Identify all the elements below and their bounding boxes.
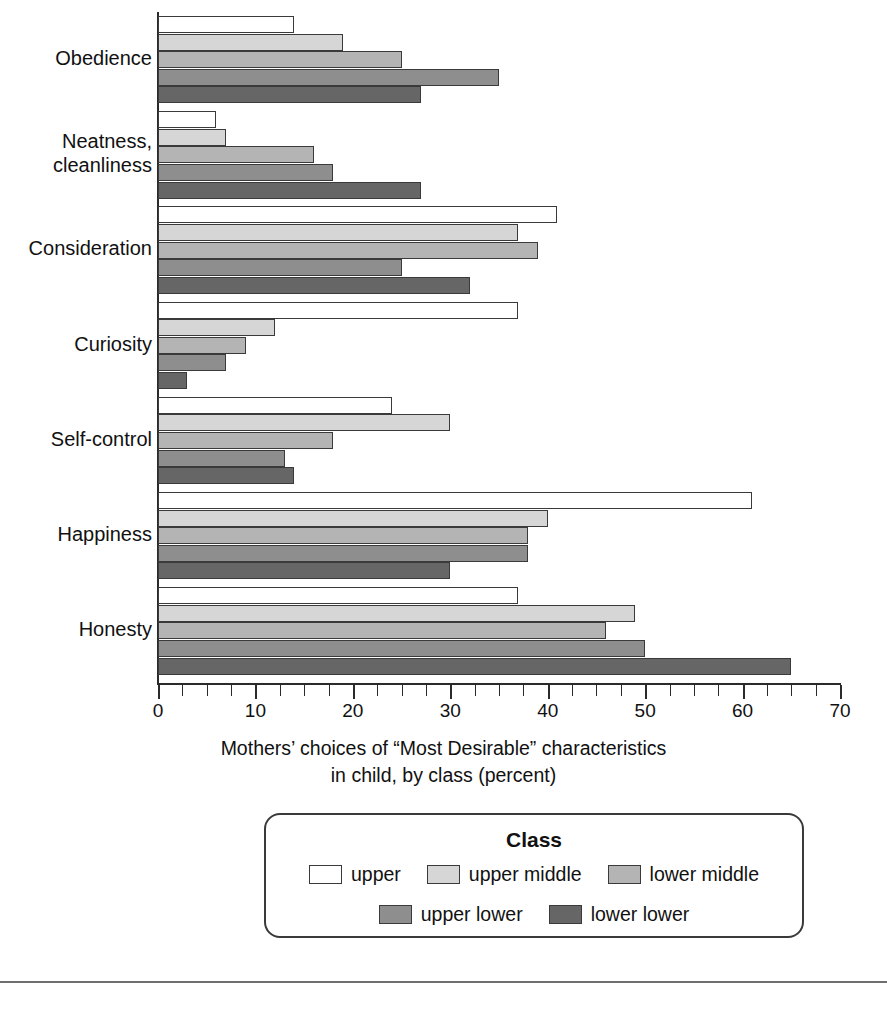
legend-swatch (309, 865, 342, 884)
legend-label: upper lower (421, 903, 523, 926)
category-label: Honesty (79, 617, 152, 641)
x-tick-minor (304, 685, 305, 696)
x-tick-minor (694, 685, 695, 696)
bar (158, 242, 538, 259)
legend-swatch (379, 905, 412, 924)
bar (158, 450, 285, 467)
legend-item[interactable]: lower lower (549, 903, 690, 926)
category-label: Neatness, cleanliness (53, 129, 152, 177)
bar (158, 34, 343, 51)
x-tick-major (353, 685, 355, 699)
bar (158, 16, 294, 33)
x-tick-major (450, 685, 452, 699)
category-label: Self-control (51, 427, 152, 451)
bar (158, 182, 421, 199)
bar (158, 372, 187, 389)
bar (158, 69, 499, 86)
category-label: Consideration (29, 236, 152, 260)
bar-chart-figure: 010203040506070 ObedienceNeatness, clean… (0, 0, 887, 1011)
x-tick-major (743, 685, 745, 699)
legend-label: upper (351, 863, 401, 886)
x-tick-minor (523, 685, 524, 696)
x-tick-minor (791, 685, 792, 696)
bar (158, 302, 518, 319)
x-axis-title: Mothers’ choices of “Most Desirable” cha… (0, 735, 887, 789)
legend-label: upper middle (469, 863, 582, 886)
x-tick-minor (596, 685, 597, 696)
bar (158, 622, 606, 639)
category-label: Obedience (55, 46, 152, 70)
legend-item[interactable]: upper lower (379, 903, 523, 926)
x-tick-label: 10 (245, 700, 266, 722)
bar (158, 605, 635, 622)
x-tick-minor (621, 685, 622, 696)
category-label: Curiosity (74, 332, 152, 356)
bar (158, 467, 294, 484)
x-tick-minor (499, 685, 500, 696)
legend-swatch (427, 865, 460, 884)
bar (158, 259, 402, 276)
bar (158, 354, 226, 371)
legend-label: lower middle (650, 863, 759, 886)
legend-row-top: upperupper middlelower middle (266, 863, 802, 886)
x-tick-major (158, 685, 160, 699)
bar (158, 164, 333, 181)
bar (158, 640, 645, 657)
x-tick-label: 30 (440, 700, 461, 722)
legend-row-bottom: upper lowerlower lower (266, 903, 802, 926)
x-tick-minor (402, 685, 403, 696)
x-tick-minor (475, 685, 476, 696)
bottom-divider (0, 981, 887, 983)
bar (158, 206, 557, 223)
legend-title: Class (266, 828, 802, 852)
bar (158, 146, 314, 163)
legend-swatch (549, 905, 582, 924)
bar (158, 510, 548, 527)
x-tick-minor (280, 685, 281, 696)
category-label: Happiness (57, 522, 152, 546)
x-tick-major (840, 685, 842, 699)
bar (158, 337, 246, 354)
legend-item[interactable]: upper (309, 863, 401, 886)
x-tick-minor (231, 685, 232, 696)
bar (158, 432, 333, 449)
x-tick-minor (670, 685, 671, 696)
legend-item[interactable]: lower middle (608, 863, 759, 886)
x-axis-title-line-1: Mothers’ choices of “Most Desirable” cha… (0, 735, 887, 762)
bar (158, 527, 528, 544)
x-tick-label: 50 (635, 700, 656, 722)
bar (158, 86, 421, 103)
x-axis-title-line-2: in child, by class (percent) (0, 762, 887, 789)
bar (158, 111, 216, 128)
bar (158, 545, 528, 562)
x-tick-major (255, 685, 257, 699)
bar (158, 277, 470, 294)
bar (158, 587, 518, 604)
bar (158, 562, 450, 579)
bar (158, 319, 275, 336)
bar (158, 129, 226, 146)
x-tick-minor (207, 685, 208, 696)
x-tick-minor (182, 685, 183, 696)
x-tick-minor (767, 685, 768, 696)
bar (158, 224, 518, 241)
legend-item[interactable]: upper middle (427, 863, 582, 886)
x-tick-minor (329, 685, 330, 696)
x-tick-label: 20 (342, 700, 363, 722)
x-tick-major (548, 685, 550, 699)
bar (158, 51, 402, 68)
legend: Class upperupper middlelower middle uppe… (264, 813, 804, 938)
x-tick-label: 60 (732, 700, 753, 722)
bar (158, 658, 791, 675)
x-tick-minor (426, 685, 427, 696)
x-tick-label: 0 (153, 700, 164, 722)
legend-label: lower lower (591, 903, 690, 926)
bar (158, 397, 392, 414)
x-tick-label: 70 (829, 700, 850, 722)
x-tick-major (645, 685, 647, 699)
x-tick-minor (572, 685, 573, 696)
x-tick-minor (816, 685, 817, 696)
x-tick-label: 40 (537, 700, 558, 722)
x-tick-minor (718, 685, 719, 696)
bar (158, 492, 752, 509)
